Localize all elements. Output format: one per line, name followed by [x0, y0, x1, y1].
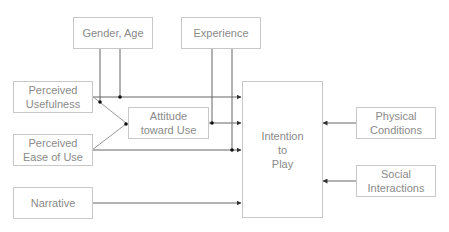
- node-label-line1: Social: [381, 167, 411, 181]
- node-label-line2: Conditions: [370, 123, 422, 137]
- node-attitude-toward-use: Attitude toward Use: [128, 107, 209, 139]
- node-label-line2: toward Use: [141, 123, 197, 137]
- junction-dot: [98, 100, 102, 104]
- node-label-line1: Attitude: [150, 109, 187, 123]
- node-social-interactions: Social Interactions: [356, 165, 436, 197]
- node-intention-to-play: Intention to Play: [242, 81, 323, 218]
- junction-dot: [210, 121, 214, 125]
- junction-dot: [230, 148, 234, 152]
- node-narrative: Narrative: [13, 187, 93, 219]
- node-label-line2: Usefulness: [26, 97, 80, 111]
- node-label-line1: Perceived: [29, 136, 78, 150]
- node-perceived-usefulness: Perceived Usefulness: [13, 81, 93, 113]
- node-perceived-ease-of-use: Perceived Ease of Use: [13, 134, 93, 166]
- node-gender-age: Gender, Age: [73, 17, 153, 49]
- node-label-line2: Interactions: [368, 181, 425, 195]
- node-label-line3: Play: [272, 157, 293, 171]
- node-label: Gender, Age: [82, 26, 143, 40]
- node-physical-conditions: Physical Conditions: [356, 107, 436, 139]
- node-label-line2: to: [278, 143, 287, 157]
- node-experience: Experience: [181, 17, 261, 49]
- node-label: Narrative: [31, 196, 76, 210]
- node-label-line1: Perceived: [29, 83, 78, 97]
- node-label-line1: Physical: [376, 109, 417, 123]
- node-label-line2: Ease of Use: [23, 150, 83, 164]
- node-label-line1: Intention: [261, 129, 303, 143]
- node-label: Experience: [193, 26, 248, 40]
- junction-dot: [118, 95, 122, 99]
- edge-pu-attitude: [92, 96, 126, 123]
- edge-peu-attitude: [92, 124, 126, 150]
